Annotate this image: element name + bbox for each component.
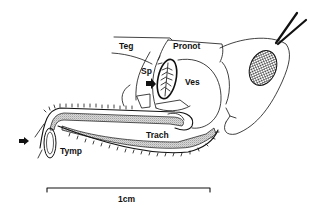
- label-tympanum: Tymp: [60, 146, 82, 156]
- label-pronotum: Pronot: [173, 41, 201, 51]
- compound-eye: [244, 46, 282, 89]
- scale-bar: [47, 188, 210, 192]
- tympanum: [35, 124, 56, 158]
- label-tegmen: Teg: [119, 41, 133, 51]
- spiracle: [154, 58, 180, 101]
- label-vesicle: Ves: [185, 77, 200, 87]
- spiracle-arrow-icon: [146, 78, 156, 89]
- head: [220, 13, 306, 134]
- scale-bar-label: 1cm: [118, 194, 135, 204]
- tympanum-arrow-icon: [19, 137, 29, 145]
- insect-ear-diagram: Teg Pronot Sp Ves Trach Tymp 1cm: [0, 0, 324, 212]
- label-trachea: Trach: [146, 130, 169, 140]
- label-spiracle: Sp: [141, 66, 152, 76]
